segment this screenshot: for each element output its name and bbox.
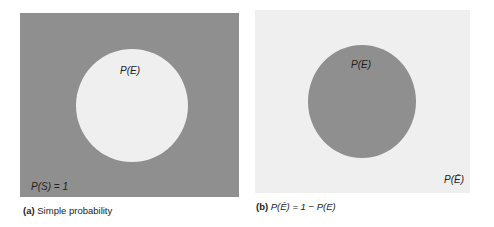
event-label-b: P(E): [351, 59, 371, 70]
caption-b: (b) P(Ē) = 1 − P(E): [256, 201, 336, 212]
sample-space-label-a: P(S) = 1: [31, 181, 68, 192]
caption-formula-b: P(Ē) = 1 − P(E): [268, 201, 336, 212]
sample-space-rect-b: [255, 10, 470, 193]
sample-space-rect-a: [20, 13, 239, 197]
caption-tag-b: (b): [256, 201, 268, 212]
event-label-a: P(E): [120, 65, 140, 76]
caption-tag-a: (a): [23, 205, 35, 216]
caption-text-a: Simple probability: [35, 205, 113, 216]
complement-label-b: P(Ē): [444, 174, 464, 185]
caption-a: (a) Simple probability: [23, 205, 112, 216]
